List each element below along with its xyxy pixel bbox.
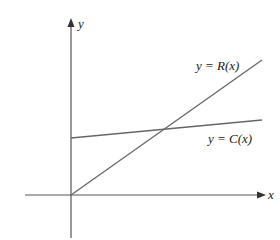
revenue-line-label: y = R(x) — [194, 58, 239, 73]
x-axis: x — [25, 187, 274, 202]
y-axis: y — [68, 16, 85, 238]
revenue-line — [71, 60, 262, 195]
x-axis-arrow-icon — [257, 192, 266, 199]
series-c: y = C(x) — [71, 120, 262, 146]
y-axis-arrow-icon — [68, 18, 75, 27]
chart: x y y = R(x) y = C(x) — [0, 0, 280, 240]
y-axis-label: y — [76, 16, 84, 31]
cost-line-label: y = C(x) — [206, 131, 252, 146]
x-axis-label: x — [267, 187, 274, 202]
series-r: y = R(x) — [71, 58, 262, 195]
